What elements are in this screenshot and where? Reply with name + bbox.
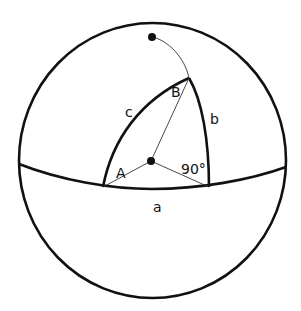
radius-to-A [103, 161, 151, 187]
radius-to-B [151, 78, 189, 161]
pole-point [148, 33, 156, 41]
label-side-c: c [125, 104, 133, 120]
pole-meridian-arc [152, 37, 189, 78]
sphere-center-point [147, 157, 155, 165]
label-angle-C: 90° [181, 161, 206, 177]
label-angle-A: A [116, 165, 126, 181]
label-side-a: a [153, 199, 162, 215]
equator-great-circle [19, 164, 286, 189]
label-angle-B: B [171, 84, 181, 100]
spherical-triangle-diagram: c b a A B 90° [0, 0, 301, 311]
label-side-b: b [210, 111, 219, 127]
